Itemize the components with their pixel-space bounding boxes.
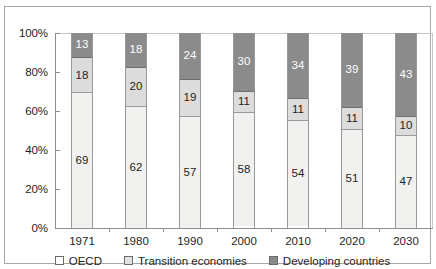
bar-1990[interactable]: 241957: [179, 33, 201, 228]
bar-segment-developing[interactable]: 43: [396, 33, 416, 117]
y-axis-tick-mark: [56, 189, 60, 190]
x-axis-label-2000: 2000: [231, 235, 257, 247]
bar-segment-developing[interactable]: 34: [288, 33, 308, 99]
y-axis-tick-mark: [56, 33, 60, 34]
legend-item-transition-economies[interactable]: Transition economies: [124, 255, 247, 267]
legend-item-label: Developing countries: [283, 255, 390, 267]
legend-item-label: Transition economies: [138, 255, 247, 267]
bar-segment-developing[interactable]: 30: [234, 33, 254, 92]
bar-segment-value: 18: [76, 70, 89, 82]
bar-segment-value: 51: [346, 173, 359, 185]
bar-segment-value: 54: [292, 168, 305, 180]
legend-item-label: OECD: [69, 255, 102, 267]
bar-segment-value: 11: [238, 96, 250, 108]
bar-segment-value: 39: [346, 64, 359, 76]
y-axis-tick-label: 60%: [25, 105, 48, 117]
bar-2030[interactable]: 431047: [395, 33, 417, 228]
legend-item-developing-countries[interactable]: Developing countries: [269, 255, 390, 267]
bar-1971[interactable]: 131869: [71, 33, 93, 228]
bar-segment-oecd[interactable]: 62: [126, 107, 146, 228]
x-axis-tick-mark: [379, 229, 380, 232]
bar-segment-oecd[interactable]: 47: [396, 136, 416, 228]
bar-segment-value: 30: [238, 56, 251, 68]
bar-segment-value: 47: [400, 176, 413, 188]
bar-segment-oecd[interactable]: 58: [234, 113, 254, 226]
bar-1980[interactable]: 182062: [125, 33, 147, 228]
bar-segment-developing[interactable]: 39: [342, 33, 362, 108]
x-axis-label-2020: 2020: [339, 235, 365, 247]
x-axis-label-2030: 2030: [393, 235, 419, 247]
x-axis-tick-mark: [271, 229, 272, 232]
plot-area: 100%80%60%40%20%0% 131869182062241957301…: [55, 33, 433, 229]
bar-segment-value: 19: [184, 92, 197, 104]
y-axis-tick-label: 80%: [25, 66, 48, 78]
x-axis-tick-mark: [217, 229, 218, 232]
chart-legend: OECDTransition economiesDeveloping count…: [9, 250, 436, 269]
x-axis-tick-mark: [163, 229, 164, 232]
chart-frame: 100%80%60%40%20%0% 131869182062241957301…: [4, 6, 431, 264]
y-axis-tick-mark: [56, 72, 60, 73]
y-axis-tick-mark: [56, 150, 60, 151]
y-axis-tick-label: 0%: [32, 222, 48, 234]
bar-segment-value: 20: [130, 81, 143, 93]
bar-segment-oecd[interactable]: 69: [72, 93, 92, 228]
y-axis-tick-label: 100%: [19, 27, 48, 39]
x-axis-line: [55, 228, 433, 229]
bar-segment-value: 11: [346, 113, 358, 125]
bar-segment-developing[interactable]: 24: [180, 33, 200, 80]
bar-segment-oecd[interactable]: 51: [342, 130, 362, 228]
bar-segment-value: 18: [130, 44, 143, 56]
x-axis-label-1971: 1971: [69, 235, 95, 247]
y-axis-line: [55, 33, 56, 229]
bar-segment-transition[interactable]: 11: [288, 99, 308, 120]
legend-swatch-icon: [55, 256, 64, 265]
y-axis-tick-label: 20%: [25, 183, 48, 195]
x-axis-label-2010: 2010: [285, 235, 311, 247]
bar-segment-transition[interactable]: 18: [72, 58, 92, 93]
bar-segment-value: 62: [130, 162, 143, 174]
bar-segment-value: 24: [184, 50, 197, 62]
bar-segment-oecd[interactable]: 57: [180, 117, 200, 228]
legend-swatch-icon: [269, 256, 278, 265]
bar-2010[interactable]: 341154: [287, 33, 309, 228]
bar-segment-value: 13: [76, 39, 89, 51]
bar-2000[interactable]: 301158: [233, 33, 255, 228]
bar-segment-value: 69: [76, 155, 89, 167]
bar-2020[interactable]: 391151: [341, 33, 363, 228]
legend-swatch-icon: [124, 256, 133, 265]
x-axis-label-1990: 1990: [177, 235, 203, 247]
bar-segment-developing[interactable]: 13: [72, 33, 92, 58]
bar-segment-oecd[interactable]: 54: [288, 121, 308, 226]
x-axis-tick-mark: [109, 229, 110, 232]
cut-off-title-strip: [0, 0, 436, 5]
bar-segment-value: 58: [238, 164, 251, 176]
bar-segment-developing[interactable]: 18: [126, 33, 146, 68]
y-axis-tick-mark: [56, 228, 60, 229]
plot-right-border: [432, 33, 433, 229]
bar-segment-transition[interactable]: 10: [396, 117, 416, 137]
bar-segment-value: 57: [184, 167, 197, 179]
stacked-bar-chart-figure: 100%80%60%40%20%0% 131869182062241957301…: [0, 0, 436, 269]
x-axis-label-1980: 1980: [123, 235, 149, 247]
y-axis-tick-label: 40%: [25, 144, 48, 156]
bar-segment-transition[interactable]: 11: [234, 92, 254, 113]
bar-segment-value: 10: [400, 120, 413, 132]
bar-segment-transition[interactable]: 20: [126, 68, 146, 107]
bar-segment-value: 11: [292, 104, 304, 116]
bar-segment-transition[interactable]: 11: [342, 108, 362, 129]
bar-segment-value: 43: [400, 69, 413, 81]
bar-segment-transition[interactable]: 19: [180, 80, 200, 117]
bar-segment-value: 34: [292, 60, 305, 72]
x-axis-tick-mark: [325, 229, 326, 232]
y-axis-tick-mark: [56, 111, 60, 112]
legend-item-oecd[interactable]: OECD: [55, 255, 102, 267]
